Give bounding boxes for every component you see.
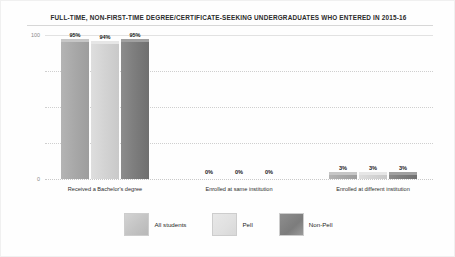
- bar-face: [121, 42, 149, 179]
- legend-label: All students: [154, 221, 186, 228]
- bar-face: [91, 44, 119, 179]
- bar-group-bars: 95% 94% 95%: [53, 35, 157, 179]
- legend-item-non-pell[interactable]: Non-Pell: [279, 213, 333, 236]
- legend-label: Non-Pell: [309, 221, 333, 228]
- bar-value-label: 3%: [339, 165, 347, 171]
- legend-swatch-icon: [279, 213, 304, 236]
- bar-non-pell[interactable]: 3%: [389, 35, 417, 179]
- legend-swatch-icon: [212, 213, 237, 236]
- bar-value-label: 3%: [369, 165, 377, 171]
- bar-face: [389, 175, 417, 179]
- bar-group-enrolled-same-institution: 0% 0% 0% Enrolled at same institution: [187, 35, 291, 179]
- bar-value-label: 0%: [265, 169, 273, 175]
- bar-pell[interactable]: 0%: [225, 35, 253, 179]
- bar-group-bars: 3% 3% 3%: [321, 35, 425, 179]
- bar-all-students[interactable]: 95%: [61, 35, 89, 179]
- category-label: Enrolled at same institution: [205, 186, 272, 192]
- bar-all-students[interactable]: 0%: [195, 35, 223, 179]
- bar-non-pell[interactable]: 0%: [255, 35, 283, 179]
- legend-item-pell[interactable]: Pell: [212, 213, 252, 236]
- y-axis-tick-100: 100: [31, 32, 40, 38]
- bar-value-label: 94%: [99, 34, 110, 40]
- bar-group-received-bachelors: 95% 94% 95%: [53, 35, 157, 179]
- bar-face: [61, 42, 89, 179]
- bar-face: [329, 175, 357, 179]
- bar-pell[interactable]: 3%: [359, 35, 387, 179]
- gridline-0: [45, 179, 433, 180]
- bar-value-label: 0%: [205, 169, 213, 175]
- bar-value-label: 3%: [399, 165, 407, 171]
- bar-non-pell[interactable]: 95%: [121, 35, 149, 179]
- plot-area: 100 0 95% 94%: [45, 35, 433, 179]
- bar-face: [359, 175, 387, 179]
- bar-value-label: 95%: [69, 32, 80, 38]
- chart-legend: All students Pell Non-Pell: [1, 213, 455, 236]
- category-label: Received a Bachelor's degree: [68, 186, 142, 192]
- chart-title: FULL-TIME, NON-FIRST-TIME DEGREE/CERTIFI…: [1, 14, 455, 21]
- chart-figure: FULL-TIME, NON-FIRST-TIME DEGREE/CERTIFI…: [0, 0, 455, 257]
- title-divider: [27, 25, 433, 26]
- legend-label: Pell: [242, 221, 252, 228]
- bar-group-bars: 0% 0% 0%: [187, 35, 291, 179]
- bar-all-students[interactable]: 3%: [329, 35, 357, 179]
- bar-pell[interactable]: 94%: [91, 35, 119, 179]
- legend-swatch-icon: [124, 213, 149, 236]
- legend-item-all-students[interactable]: All students: [124, 213, 186, 236]
- y-axis-tick-0: 0: [37, 176, 40, 182]
- bar-value-label: 0%: [235, 169, 243, 175]
- bar-group-enrolled-different-institution: 3% 3% 3%: [321, 35, 425, 179]
- bar-value-label: 95%: [129, 32, 140, 38]
- category-label: Enrolled at different institution: [336, 186, 410, 192]
